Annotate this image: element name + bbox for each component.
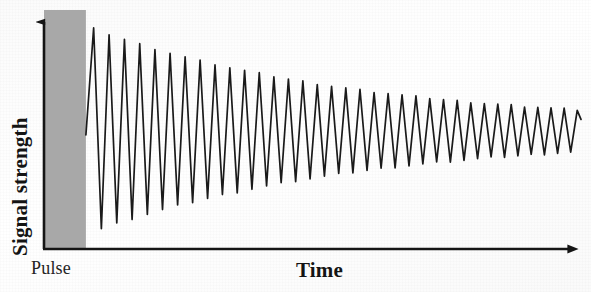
x-axis-label: Time	[296, 258, 343, 283]
pulse-region-label: Pulse	[31, 258, 71, 279]
figure-root: Signal strength Time Pulse	[0, 0, 591, 292]
signal-waveform-trace	[86, 28, 581, 229]
signal-decay-plot	[0, 0, 591, 292]
pulse-region-band	[44, 10, 86, 249]
y-axis-label: Signal strength	[2, 0, 38, 292]
